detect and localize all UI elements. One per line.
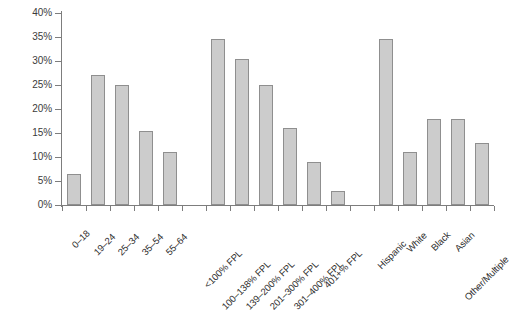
x-axis-tick xyxy=(134,206,135,211)
x-axis-tick xyxy=(278,206,279,211)
y-axis-tick xyxy=(55,13,61,14)
bar xyxy=(259,85,274,205)
x-axis-label-wrap: Other/Multiple xyxy=(503,213,513,262)
x-axis-tick xyxy=(350,206,351,211)
x-axis-label-wrap: 0–18 xyxy=(84,213,106,235)
bar xyxy=(139,131,154,205)
y-axis-tick-label: 30% xyxy=(0,55,52,66)
y-axis-tick xyxy=(55,181,61,182)
y-axis-tick-label: 35% xyxy=(0,31,52,42)
x-axis-tick xyxy=(398,206,399,211)
x-axis-tick xyxy=(254,206,255,211)
x-axis-tick-label: 19–24 xyxy=(91,231,117,257)
x-axis-tick xyxy=(446,206,447,211)
bar xyxy=(331,191,346,205)
bar xyxy=(403,152,418,205)
x-axis-tick xyxy=(158,206,159,211)
y-axis-tick xyxy=(55,61,61,62)
x-axis-tick xyxy=(86,206,87,211)
bar xyxy=(235,59,250,205)
y-axis-tick-label: 25% xyxy=(0,79,52,90)
x-axis-tick-label: Other/Multiple xyxy=(462,254,511,303)
y-axis-label-wrap: 15% xyxy=(0,127,52,139)
y-axis-tick xyxy=(55,85,61,86)
y-axis-label-wrap: 10% xyxy=(0,151,52,163)
x-axis-label-wrap: Asian xyxy=(469,213,493,237)
y-axis-label-wrap: 0% xyxy=(0,199,52,211)
y-axis-tick xyxy=(55,205,61,206)
x-axis-tick xyxy=(182,206,183,211)
y-axis-tick xyxy=(55,133,61,134)
x-axis-tick xyxy=(326,206,327,211)
x-axis-tick xyxy=(422,206,423,211)
x-axis-tick-label: Hispanic xyxy=(375,238,408,271)
bar xyxy=(451,119,466,205)
y-axis-tick-label: 40% xyxy=(0,7,52,18)
y-axis-tick xyxy=(55,157,61,158)
y-axis-tick-label: 5% xyxy=(0,175,52,186)
y-axis-tick-label: 10% xyxy=(0,151,52,162)
x-axis-tick xyxy=(206,206,207,211)
y-axis-label-wrap: 5% xyxy=(0,175,52,187)
x-axis-tick xyxy=(62,206,63,211)
bar xyxy=(475,143,490,205)
y-axis-label-wrap: 25% xyxy=(0,79,52,91)
x-axis-tick-label: 0–18 xyxy=(69,228,91,250)
y-axis-label-wrap: 30% xyxy=(0,55,52,67)
x-axis-tick xyxy=(230,206,231,211)
bar xyxy=(91,75,106,205)
bar xyxy=(115,85,130,205)
plot-area xyxy=(62,13,494,205)
x-axis-tick xyxy=(302,206,303,211)
y-axis-tick-label: 15% xyxy=(0,127,52,138)
y-axis-label-wrap: 40% xyxy=(0,7,52,19)
x-axis-tick xyxy=(110,206,111,211)
bar xyxy=(283,128,298,205)
y-axis-tick xyxy=(55,109,61,110)
y-axis-tick xyxy=(55,37,61,38)
y-axis-tick-label: 0% xyxy=(0,199,52,210)
bar xyxy=(211,39,226,205)
bar xyxy=(67,174,82,205)
y-axis-label-wrap: 20% xyxy=(0,103,52,115)
y-axis-label-wrap: 35% xyxy=(0,31,52,43)
bar xyxy=(427,119,442,205)
x-axis-tick xyxy=(494,206,495,211)
bar xyxy=(307,162,322,205)
bar xyxy=(379,39,394,205)
bar xyxy=(163,152,178,205)
x-axis-label-wrap: 55–64 xyxy=(182,213,208,239)
x-axis-tick xyxy=(374,206,375,211)
x-axis-tick xyxy=(470,206,471,211)
y-axis-tick-label: 20% xyxy=(0,103,52,114)
